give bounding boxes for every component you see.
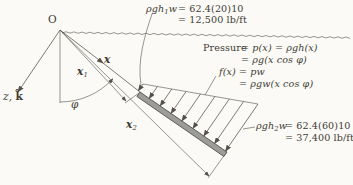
pressure-line4: = ρgw(x cos φ) — [239, 79, 313, 89]
plate-bar — [137, 92, 227, 157]
angle-arc — [60, 79, 113, 102]
dimension-lines — [60, 30, 226, 178]
x2-dimension-arrow — [60, 30, 209, 176]
bottom-load-term-base: ρgh — [256, 120, 274, 131]
inclined-plate — [137, 92, 227, 157]
z-axis-label-z: z, — [3, 90, 12, 102]
top-load-term-tail: w — [169, 3, 177, 14]
top-load-eq2: = 12,500 lb/ft — [178, 15, 247, 25]
pressure-line3: f(x) = pw — [219, 67, 265, 77]
top-load-eq1: = 62.4(20)10 — [178, 4, 244, 14]
fx-label-leader — [205, 76, 216, 95]
phi-arc-arrow — [60, 79, 113, 102]
pressure-line2: = ρg(x cos φ) — [241, 55, 307, 65]
pressure-arrows — [138, 84, 258, 151]
diagram-canvas — [0, 0, 353, 185]
plate-top-tick — [125, 93, 139, 103]
bottom-label-leader — [243, 127, 255, 129]
water-surface-line — [62, 32, 350, 39]
top-load-term: ρgh1w — [146, 4, 177, 16]
plate-bottom-tick — [208, 153, 226, 178]
k-hat-unit-vector-label: k̂ — [16, 90, 23, 102]
bottom-load-eq2: = 37,400 lb/ft — [285, 133, 353, 143]
top-label-leader — [140, 14, 152, 85]
x-axis-arrow — [60, 30, 103, 63]
phi-angle-label: φ — [71, 99, 78, 110]
x2-label: x2 — [126, 119, 137, 132]
textbook-figure-fluid-pressure: O z, k̂ x x1 x2 φ ρgh1w = 62.4(20)10 = 1… — [0, 0, 353, 185]
x-axis-label: x — [104, 54, 110, 65]
x1-subscript: 1 — [83, 71, 87, 79]
origin-label: O — [48, 14, 57, 25]
z-axis-label: z, k̂ — [3, 91, 23, 102]
bottom-load-term: ρgh2w — [256, 121, 287, 133]
bottom-load-eq1: = 62.4(60)10 — [285, 121, 351, 131]
z-axis-arrow — [18, 30, 60, 92]
top-load-term-base: ρgh — [146, 3, 164, 14]
pressure-line1: = p(x) = ρgh(x) — [241, 43, 318, 53]
x2-subscript: 2 — [132, 124, 136, 132]
pressure-load-diagram — [138, 84, 258, 151]
x1-label: x1 — [77, 66, 88, 79]
x1-dimension-arrow — [60, 30, 126, 101]
